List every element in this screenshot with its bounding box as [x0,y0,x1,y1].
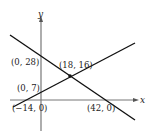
label-minus14-0: (−14, 0) [12,103,47,113]
y-axis-label: y [37,9,44,19]
increasing-line [13,43,135,107]
x-axis-label: x [140,95,145,105]
label-42-0: (42, 0) [87,103,115,113]
intersection-point [68,74,72,78]
x-axis-arrow-icon [133,98,139,102]
label-0-7: (0, 7) [17,83,40,93]
line-graph: y x (0, 28) (18, 16) (0, 7) (−14, 0) (42… [0,0,149,138]
label-0-28: (0, 28) [11,57,39,67]
label-18-16: (18, 16) [59,60,93,70]
